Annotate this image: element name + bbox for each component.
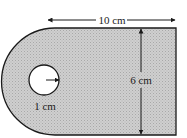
- width-label: 10 cm: [98, 14, 126, 26]
- height-label: 6 cm: [130, 74, 152, 86]
- composite-shape-diagram: 1 cm 10 cm 6 cm: [0, 0, 187, 138]
- hole-radius-label: 1 cm: [34, 100, 56, 112]
